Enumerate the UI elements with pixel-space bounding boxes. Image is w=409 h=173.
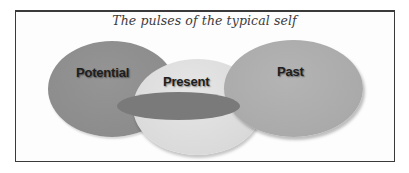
- diagram-title: The pulses of the typical self: [0, 13, 409, 28]
- past-ellipse: [224, 40, 363, 137]
- past-label: Past: [277, 64, 304, 79]
- present-label: Present: [163, 74, 209, 89]
- potential-label: Potential: [76, 65, 129, 80]
- overlap-band-ellipse: [117, 92, 240, 120]
